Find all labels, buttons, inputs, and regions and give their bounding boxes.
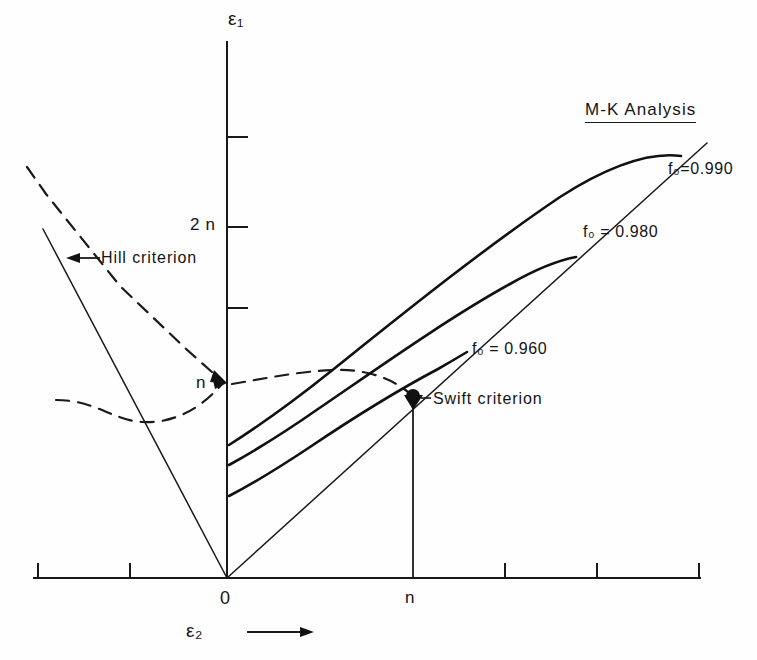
y-axis-label: ε₁: [228, 8, 244, 30]
annotation-swift-criterion: Swift criterion: [433, 390, 543, 408]
hill-leader-arrowhead: [66, 253, 80, 263]
swift-marker-group: [404, 390, 423, 577]
swift-criterion-lines: [43, 143, 707, 578]
origin-label: 0: [220, 588, 231, 609]
annotation-leaders: [66, 253, 431, 637]
annotation-hill-criterion: Hill criterion: [101, 249, 197, 267]
hill-upper-branch: [27, 167, 222, 381]
series-label-f0-960: f₀ = 0.960: [472, 340, 547, 358]
swift-marker-dot: [407, 390, 419, 402]
chart-title: M-K Analysis: [585, 100, 696, 123]
x-axis-direction-arrowhead: [300, 627, 314, 637]
mk-curves-group: [229, 155, 681, 496]
x-axis-label: ε₂: [186, 620, 203, 642]
y-tick-label-2n: 2 n: [190, 215, 215, 235]
forming-limit-diagram: ε₁ ε₂ 2 n n 0 n M-K Analysis f₀=0.990 f₀…: [0, 0, 757, 660]
series-label-f0-990: f₀=0.990: [668, 160, 733, 178]
hill-right-arch: [232, 370, 414, 397]
swift-left-ray: [43, 229, 227, 578]
x-tick-label-n: n: [405, 588, 415, 608]
mk-curve-f0-960: [229, 352, 467, 496]
plot-canvas: [0, 0, 757, 660]
y-tick-label-n: n: [196, 373, 206, 393]
series-label-f0-980: f₀ = 0.980: [583, 223, 658, 241]
swift-right-ray: [227, 143, 707, 578]
mk-curve-f0-980: [229, 257, 576, 465]
